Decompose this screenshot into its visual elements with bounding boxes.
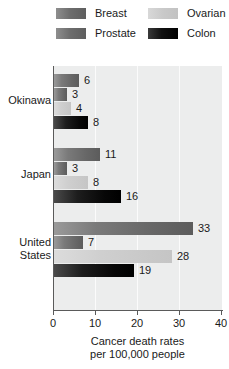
category-label-okinawa-line1: Okinawa bbox=[8, 94, 51, 106]
category-label-japan-line1: Japan bbox=[21, 168, 51, 180]
bar-okinawa-breast bbox=[54, 74, 79, 87]
legend-label-ovarian: Ovarian bbox=[187, 8, 226, 19]
category-label-united-states-line2: States bbox=[0, 249, 51, 262]
bar-united-states-ovarian bbox=[54, 250, 172, 263]
bar-japan-prostate bbox=[54, 162, 67, 175]
bar-japan-breast bbox=[54, 148, 100, 161]
x-tick-label-30: 30 bbox=[166, 317, 192, 329]
legend-item-ovarian: Ovarian bbox=[148, 8, 226, 19]
bar-value-united-states-prostate: 7 bbox=[88, 236, 94, 249]
x-axis-title-line1: Cancer death rates bbox=[53, 335, 222, 348]
x-tick-mark-0 bbox=[53, 310, 54, 315]
bar-value-okinawa-breast: 6 bbox=[84, 74, 90, 87]
x-tick-label-40: 40 bbox=[208, 317, 229, 329]
legend-label-prostate: Prostate bbox=[95, 28, 136, 39]
legend-item-breast: Breast bbox=[56, 8, 127, 19]
bar-okinawa-prostate bbox=[54, 88, 67, 101]
bar-okinawa-ovarian bbox=[54, 102, 71, 115]
x-tick-label-0: 0 bbox=[40, 317, 66, 329]
legend-swatch-icon-ovarian bbox=[148, 8, 178, 19]
bar-united-states-colon bbox=[54, 264, 134, 277]
legend-swatch-icon-breast bbox=[56, 8, 86, 19]
bar-series-container: 6 3 4 8 11 3 8 16 bbox=[54, 66, 222, 310]
bar-value-japan-prostate: 3 bbox=[72, 162, 78, 175]
bar-value-okinawa-prostate: 3 bbox=[72, 88, 78, 101]
bar-value-japan-colon: 16 bbox=[126, 190, 138, 203]
chart-legend: Breast Ovarian Prostate Colon bbox=[0, 0, 229, 52]
category-label-japan: Japan bbox=[0, 168, 51, 181]
bar-chart: 0 10 20 30 40 Okinawa Japan United State… bbox=[0, 52, 229, 369]
bar-value-okinawa-colon: 8 bbox=[93, 116, 99, 129]
x-tick-label-10: 10 bbox=[82, 317, 108, 329]
x-tick-mark-20 bbox=[137, 310, 138, 315]
legend-label-colon: Colon bbox=[187, 28, 216, 39]
bar-value-japan-breast: 11 bbox=[105, 148, 116, 161]
legend-item-colon: Colon bbox=[148, 28, 216, 39]
bar-value-united-states-breast: 33 bbox=[198, 222, 210, 235]
legend-item-prostate: Prostate bbox=[56, 28, 136, 39]
legend-label-breast: Breast bbox=[95, 8, 127, 19]
legend-swatch-icon-prostate bbox=[56, 28, 86, 39]
x-tick-mark-10 bbox=[95, 310, 96, 315]
bar-okinawa-colon bbox=[54, 116, 88, 129]
bar-united-states-breast bbox=[54, 222, 193, 235]
x-tick-mark-40 bbox=[221, 310, 222, 315]
bar-value-okinawa-ovarian: 4 bbox=[76, 102, 82, 115]
bar-united-states-prostate bbox=[54, 236, 83, 249]
x-tick-label-20: 20 bbox=[124, 317, 150, 329]
x-axis-title: Cancer death rates per 100,000 people bbox=[53, 335, 222, 361]
bar-value-japan-ovarian: 8 bbox=[93, 176, 99, 189]
legend-swatch-icon-colon bbox=[148, 28, 178, 39]
category-label-okinawa: Okinawa bbox=[0, 94, 51, 107]
x-axis-title-line2: per 100,000 people bbox=[53, 348, 222, 361]
category-label-united-states: United States bbox=[0, 236, 51, 261]
x-tick-mark-30 bbox=[179, 310, 180, 315]
bar-value-united-states-ovarian: 28 bbox=[177, 250, 189, 263]
bar-japan-colon bbox=[54, 190, 121, 203]
bar-japan-ovarian bbox=[54, 176, 88, 189]
category-label-united-states-line1: United bbox=[0, 236, 51, 249]
bar-value-united-states-colon: 19 bbox=[139, 264, 151, 277]
x-axis-line bbox=[53, 310, 223, 311]
